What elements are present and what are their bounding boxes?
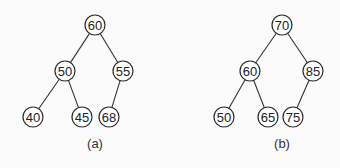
tree-node: 60 (85, 15, 105, 35)
edge-60-50 (229, 80, 245, 109)
tree-node: 60 (240, 61, 260, 81)
edge-70-60 (256, 33, 277, 63)
tree-node: 45 (72, 107, 92, 127)
tree-node: 65 (258, 107, 278, 127)
tree-caption-b: (b) (274, 136, 290, 151)
tree-a-edges (39, 33, 120, 108)
node-label: 55 (116, 64, 130, 79)
edge-55-68 (112, 81, 120, 108)
node-label: 50 (58, 64, 72, 79)
nodes-layer: 605055404568706085506575 (23, 15, 323, 127)
node-label: 45 (75, 110, 89, 125)
edge-60-65 (254, 80, 265, 107)
node-label: 75 (286, 110, 300, 125)
node-label: 85 (306, 64, 320, 79)
tree-diagram: 605055404568706085506575 (a)(b) (0, 0, 340, 168)
tree-node: 40 (23, 107, 43, 127)
tree-node: 75 (283, 107, 303, 127)
tree-a-nodes: 605055404568 (23, 15, 133, 127)
node-label: 70 (275, 18, 289, 33)
node-label: 60 (243, 64, 257, 79)
tree-caption-a: (a) (87, 136, 103, 151)
edge-70-85 (288, 33, 308, 62)
tree-node: 50 (214, 107, 234, 127)
node-label: 50 (217, 110, 231, 125)
captions-layer: (a)(b) (87, 136, 290, 151)
edge-60-55 (100, 34, 118, 63)
node-label: 68 (102, 110, 116, 125)
edge-60-50 (70, 33, 89, 62)
node-label: 60 (88, 18, 102, 33)
node-label: 40 (26, 110, 40, 125)
tree-node: 70 (272, 15, 292, 35)
tree-node: 68 (99, 107, 119, 127)
edge-50-40 (39, 79, 60, 109)
edge-50-45 (68, 80, 78, 107)
tree-b-nodes: 706085506575 (214, 15, 323, 127)
tree-node: 50 (55, 61, 75, 81)
edges-layer (39, 33, 309, 109)
tree-node: 85 (303, 61, 323, 81)
edge-85-75 (297, 80, 309, 108)
node-label: 65 (261, 110, 275, 125)
tree-node: 55 (113, 61, 133, 81)
